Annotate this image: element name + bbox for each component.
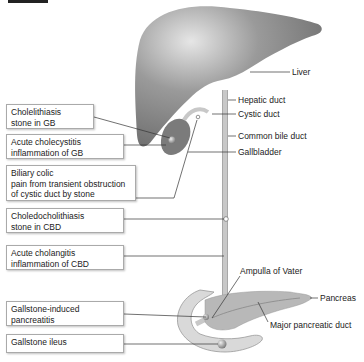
- label-hepatic-duct: Hepatic duct: [238, 95, 285, 105]
- label-desc: pancreatitis: [11, 315, 119, 326]
- label-title: Gallstone ileus: [11, 337, 119, 348]
- cystic-duct: [184, 109, 208, 120]
- label-title: Cholelithiasis: [11, 107, 89, 118]
- label-gallbladder: Gallbladder: [238, 147, 281, 157]
- label-choledocholithiasis: Choledocholithiasis stone in CBD: [6, 208, 124, 233]
- label-title: Gallstone-induced: [11, 304, 119, 315]
- label-title: Acute cholangitis: [11, 248, 119, 259]
- label-major-pancreatic-duct: Major pancreatic duct: [270, 320, 351, 330]
- label-desc: stone in CBD: [11, 222, 119, 233]
- label-cystic-duct: Cystic duct: [238, 109, 280, 119]
- label-common-bile-duct: Common bile duct: [238, 131, 307, 141]
- stone-cbd: [224, 217, 229, 222]
- label-liver: Liver: [292, 67, 310, 77]
- label-acute-cholangitis: Acute cholangitis inflammation of CBD: [6, 245, 124, 270]
- label-title: Acute cholecystitis: [11, 137, 119, 148]
- stone-cystic-duct: [196, 115, 200, 119]
- label-desc: pain from transient obstruction: [11, 179, 131, 190]
- label-desc: inflammation of CBD: [11, 259, 119, 270]
- label-gallstone-pancreatitis: Gallstone-induced pancreatitis: [6, 301, 124, 326]
- label-title: Biliary colic: [11, 168, 131, 179]
- label-desc-cont: of cystic duct by stone: [11, 189, 131, 200]
- label-desc: inflammation of GB: [11, 148, 119, 159]
- label-acute-cholecystitis: Acute cholecystitis inflammation of GB: [6, 134, 124, 159]
- label-gallstone-ileus: Gallstone ileus: [6, 334, 124, 353]
- stone-ileus: [218, 340, 227, 349]
- label-desc: stone in GB: [11, 118, 89, 129]
- label-title: Choledocholithiasis: [11, 211, 119, 222]
- label-biliary-colic: Biliary colic pain from transient obstru…: [6, 165, 136, 201]
- common-bile-duct: [196, 90, 225, 324]
- label-ampulla-of-vater: Ampulla of Vater: [240, 266, 302, 276]
- label-cholelithiasis: Cholelithiasis stone in GB: [6, 104, 94, 129]
- label-pancreas: Pancreas: [320, 293, 356, 303]
